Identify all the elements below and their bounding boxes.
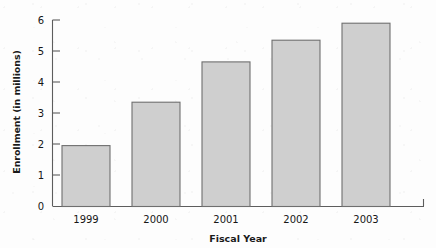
bar-2003 [342,23,390,206]
y-tick-label-3: 3 [38,108,44,119]
x-tick-label-2001: 2001 [213,214,238,225]
y-tick-label-1: 1 [38,170,44,181]
x-tick-label-2000: 2000 [143,214,168,225]
y-tick-label-0: 0 [38,201,44,212]
x-tick-label-2003: 2003 [353,214,378,225]
bar-2000 [132,102,180,206]
chart-canvas: Enrollment (in millions) 6 5 4 3 2 1 0 1… [0,0,436,248]
y-tick-label-6: 6 [38,15,44,26]
x-tick-label-2002: 2002 [283,214,308,225]
y-tick-label-4: 4 [38,77,44,88]
y-axis-label: Enrollment (in millions) [11,50,22,173]
bar-2002 [272,40,320,206]
bar-chart: Enrollment (in millions) 6 5 4 3 2 1 0 1… [0,0,436,248]
bar-2001 [202,62,250,207]
y-tick-label-5: 5 [38,46,44,57]
y-tick-label-2: 2 [38,139,44,150]
x-tick-label-1999: 1999 [73,214,98,225]
x-axis-label: Fiscal Year [209,233,267,244]
bar-1999 [62,146,110,207]
